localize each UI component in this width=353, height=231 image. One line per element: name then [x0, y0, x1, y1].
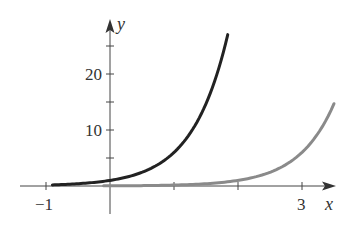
tick-label-10: 10 [85, 121, 102, 140]
tick-label-3: 3 [297, 195, 306, 214]
tick-label-20: 20 [85, 65, 102, 84]
tick-label-neg1: −1 [35, 195, 53, 214]
x-axis-label: x [324, 194, 333, 214]
chart-canvas: y x −1 3 10 20 [0, 0, 353, 231]
curves [52, 35, 334, 186]
chart: y x −1 3 10 20 [0, 0, 353, 231]
y-axis-label: y [115, 14, 125, 34]
dark-curve [52, 35, 227, 185]
